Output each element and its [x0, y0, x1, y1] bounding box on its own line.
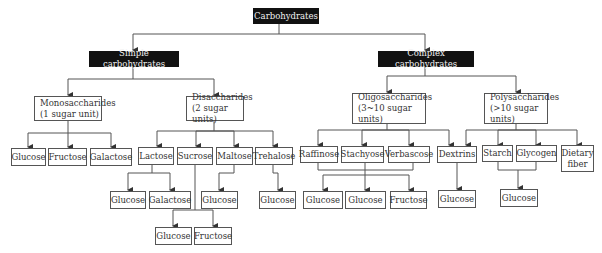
mono-glucose-node: Glucose	[11, 148, 46, 166]
starch-node: Starch	[482, 145, 513, 162]
oligo-fructose-node: Fructose	[390, 191, 427, 209]
glycogen-node: Glycogen	[516, 145, 557, 162]
maltose-node: Maltose	[216, 147, 253, 165]
polysaccharides-node: Polysaccharides (>10 sugar units)	[484, 93, 548, 124]
dextrins-node: Dextrins	[437, 146, 477, 163]
complex-carbohydrates-node: Complex carbohydrates	[378, 51, 474, 67]
sucrose-node: Sucrose	[177, 147, 213, 165]
verbascose-node: Verbascose	[388, 146, 430, 163]
mono-galactose-node: Galactose	[90, 148, 132, 166]
trehalose-node: Trehalose	[255, 147, 293, 165]
lactose-node: Lactose	[138, 147, 174, 165]
trehalose-glucose-node: Glucose	[259, 191, 296, 209]
lactose-galactose-node: Galactose	[149, 191, 191, 209]
disaccharides-node: Disaccharides (2 sugar units)	[186, 96, 244, 121]
carbohydrates-node: Carbohydrates	[253, 8, 319, 24]
mono-fructose-node: Fructose	[48, 148, 87, 166]
connector-lines	[0, 0, 602, 253]
stachyose-node: Stachyose	[341, 146, 384, 163]
monosaccharides-node: Monosaccharides (1 sugar unit)	[34, 96, 102, 121]
dextrins-glucose-node: Glucose	[438, 190, 476, 208]
maltose-glucose-node: Glucose	[201, 191, 238, 209]
lactose-glucose-node: Glucose	[110, 191, 146, 209]
raffinose-node: Raffinose	[300, 146, 338, 163]
dietary-fiber-node: Dietary fiber	[561, 145, 594, 172]
sucrose-fructose-node: Fructose	[194, 227, 232, 245]
sucrose-glucose-node: Glucose	[155, 227, 192, 245]
oligo-glucose-1-node: Glucose	[303, 191, 343, 209]
simple-carbohydrates-node: Simple carbohydrates	[89, 51, 179, 67]
starch-glycogen-glucose-node: Glucose	[500, 189, 538, 207]
oligo-glucose-2-node: Glucose	[345, 191, 386, 209]
oligosaccharides-node: Oligosaccharides (3~10 sugar units)	[352, 93, 426, 124]
